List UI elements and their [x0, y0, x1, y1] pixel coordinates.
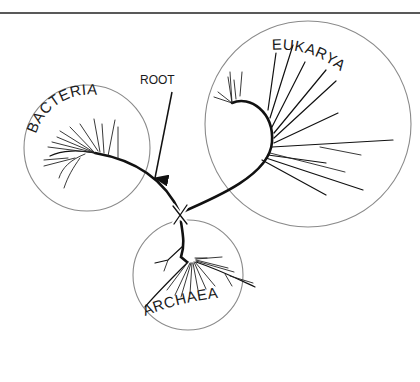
root-label: ROOT — [140, 73, 175, 87]
eukarya-label: EUKARYA — [271, 36, 349, 74]
root-marker-x-icon — [173, 205, 187, 224]
bacteria-label: BACTERIA — [23, 80, 99, 135]
tree-trunks — [95, 101, 272, 262]
eukarya-branches — [214, 45, 393, 195]
root-arrow-icon — [155, 92, 172, 178]
archaea-label: ARCHAEA — [140, 284, 219, 319]
tree-of-life-diagram: ROOT BACTERIA EUKARYA ARCHAEA — [0, 0, 420, 382]
bacteria-branches — [44, 119, 118, 188]
